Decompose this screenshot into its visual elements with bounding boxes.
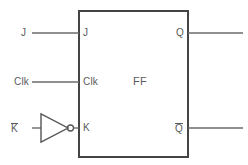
not-gate-triangle (41, 114, 68, 142)
pin-label-qbar-overbar-text: Q (175, 123, 183, 134)
pin-label-clk: Clk (83, 77, 98, 87)
schematic-canvas: J Clk K J Clk K Q Q FF (0, 0, 248, 165)
input-label-kbar: K (11, 123, 18, 134)
pin-label-j: J (83, 28, 88, 38)
pin-label-q: Q (176, 28, 184, 38)
input-label-j: J (21, 28, 26, 38)
schematic-svg (0, 0, 248, 165)
pin-label-k: K (83, 123, 90, 133)
input-label-kbar-overbar-text: K (11, 123, 18, 134)
input-label-clk: Clk (14, 77, 29, 87)
pin-label-qbar: Q (175, 123, 183, 134)
flip-flop-body-label: FF (133, 76, 147, 87)
